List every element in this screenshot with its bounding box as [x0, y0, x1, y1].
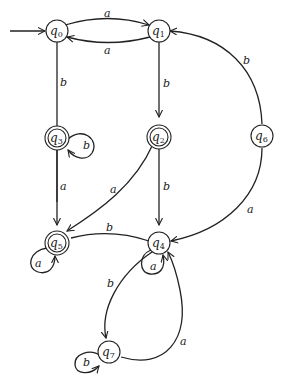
edge-label-q1-q0: a — [104, 44, 111, 57]
edge-label-q0-q3: b — [60, 76, 67, 89]
edge-q4-q7 — [105, 252, 152, 338]
state-q3: q3 — [45, 126, 69, 150]
edge-q4-q5 — [71, 234, 149, 241]
state-q1: q1 — [148, 20, 170, 42]
edge-label-q2-q5: a — [110, 183, 117, 196]
edge-label-q3-q3: b — [83, 139, 90, 152]
state-q4: q4 — [148, 232, 170, 254]
edge-label-q2-q4: b — [163, 180, 170, 193]
edge-label-q4-q5: b — [106, 221, 113, 234]
edge-label-q0-q1: a — [104, 7, 111, 20]
edge-label-q7-q4: a — [180, 335, 187, 348]
edge-q6-q4 — [171, 148, 262, 241]
state-q7: q7 — [98, 341, 120, 363]
edge-label-q4-q7: b — [107, 277, 114, 290]
state-q5: q5 — [45, 231, 69, 255]
edge-q1-q0 — [67, 37, 150, 43]
state-q2: q2 — [147, 125, 171, 149]
edge-q6-q1 — [170, 31, 262, 124]
state-q6: q6 — [251, 125, 273, 147]
edge-label-q4-q4: a — [150, 260, 157, 273]
automaton-diagram: a a b b b a a b b a b a a b a b q0 — [0, 0, 288, 383]
edge-label-q6-q4: a — [247, 203, 254, 216]
edge-label-q7-q7: b — [83, 356, 90, 369]
edge-label-q1-q2: b — [163, 77, 170, 90]
edge-label-q5-q5: a — [35, 257, 42, 270]
edge-label-q6-q1: b — [243, 54, 250, 67]
edge-label-q3-q5: a — [60, 180, 67, 193]
state-q0: q0 — [46, 20, 68, 42]
